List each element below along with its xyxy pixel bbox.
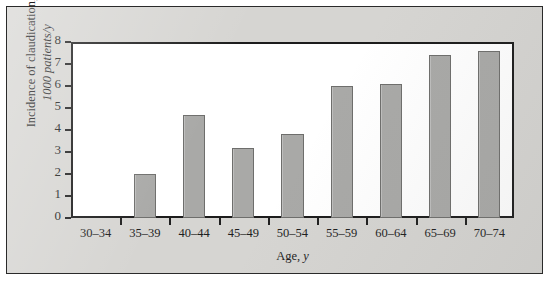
figure-panel: 012345678 Incidence of claudication, 100…	[6, 6, 543, 274]
x-axis-tick-mark	[268, 218, 270, 225]
bar-series	[71, 42, 514, 218]
bar-slot	[416, 42, 465, 218]
x-axis-ticks	[71, 218, 514, 225]
x-axis-tick-mark	[317, 218, 319, 225]
x-axis-tick-mark	[416, 218, 418, 225]
x-axis-title-unit: y	[303, 249, 309, 263]
bar	[429, 55, 451, 218]
bar-slot	[366, 42, 415, 218]
y-axis-title: Incidence of claudication, 1000 patients…	[24, 0, 55, 158]
bar-slot	[317, 42, 366, 218]
x-axis-category-label: 35–39	[120, 226, 169, 241]
x-axis-tick-mark	[169, 218, 171, 225]
bar	[183, 115, 205, 218]
x-axis-title: Age, y	[71, 249, 514, 264]
y-axis-title-line1: Incidence of claudication,	[24, 0, 40, 158]
x-axis-category-label: 60–64	[366, 226, 415, 241]
bar	[232, 148, 254, 218]
x-axis-title-text: Age,	[276, 249, 303, 263]
bar-slot	[219, 42, 268, 218]
x-axis-category-label: 70–74	[465, 226, 514, 241]
y-axis-title-line2: 1000 patients/y	[40, 0, 56, 158]
x-axis-labels: 30–3435–3940–4445–4950–5455–5960–6465–69…	[71, 226, 514, 241]
bar	[134, 174, 156, 218]
x-axis-category-label: 45–49	[219, 226, 268, 241]
x-axis-category-label: 65–69	[416, 226, 465, 241]
x-axis-category-label: 40–44	[169, 226, 218, 241]
x-axis-tick-mark	[465, 218, 467, 225]
bar-slot	[465, 42, 514, 218]
y-axis-tick-label: 0	[55, 209, 62, 222]
bar	[281, 134, 303, 218]
x-axis-category-label: 50–54	[268, 226, 317, 241]
bar	[380, 84, 402, 218]
bar-slot	[120, 42, 169, 218]
x-axis-tick-mark	[219, 218, 221, 225]
y-axis-tick-label: 2	[55, 165, 62, 178]
x-axis-tick-mark	[120, 218, 122, 225]
x-axis-tick-mark	[366, 218, 368, 225]
y-axis-tick-label: 1	[55, 187, 62, 200]
x-axis-category-label: 30–34	[71, 226, 120, 241]
x-axis-category-label: 55–59	[317, 226, 366, 241]
bar-slot	[268, 42, 317, 218]
bar-slot	[169, 42, 218, 218]
bar	[478, 51, 500, 218]
bar-slot	[71, 42, 120, 218]
bar	[331, 86, 353, 218]
